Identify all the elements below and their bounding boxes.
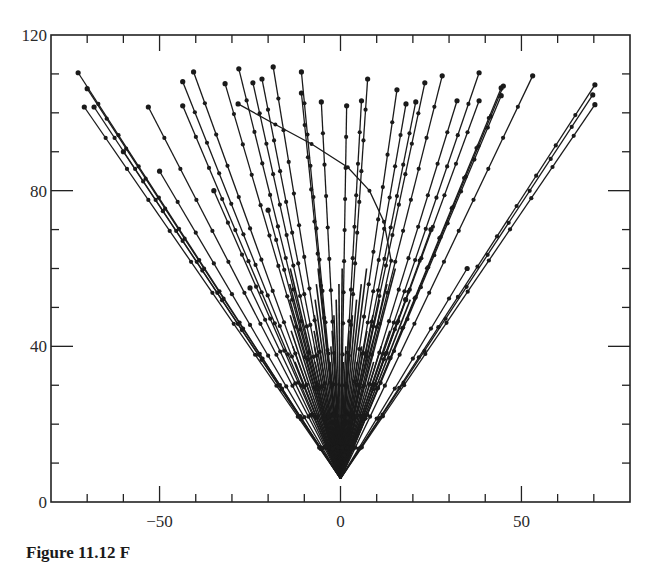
trajectory-marker (174, 229, 178, 233)
trajectory-marker (325, 348, 329, 352)
trajectory-marker (287, 160, 291, 164)
trajectory-marker (237, 195, 241, 199)
trajectory-marker (395, 321, 399, 325)
trajectory-marker (245, 98, 249, 102)
trajectory-marker (168, 229, 172, 233)
trajectory-marker (285, 233, 289, 237)
trajectory-marker (178, 167, 182, 171)
trajectory-marker (322, 316, 326, 320)
trajectory-marker (357, 200, 361, 204)
trajectory-marker (264, 142, 268, 146)
trajectory-marker (528, 189, 532, 193)
trajectory-marker (137, 164, 141, 168)
trajectory-marker (235, 101, 240, 106)
trajectory-marker (409, 198, 413, 202)
trajectory-marker (290, 354, 294, 358)
trajectory-marker (393, 386, 397, 390)
trajectory-marker (343, 228, 347, 232)
trajectory-marker (573, 113, 577, 117)
trajectory-marker (271, 289, 275, 293)
trajectory-marker (416, 225, 420, 229)
trajectory-marker (299, 319, 303, 323)
trajectory-marker (314, 226, 318, 230)
trajectory-marker (381, 185, 385, 189)
trajectory-marker (422, 80, 427, 85)
trajectory-marker (436, 162, 440, 166)
trajectory-marker (203, 101, 207, 105)
trajectory-marker (429, 326, 433, 330)
trajectory-marker (465, 130, 469, 134)
trajectory-marker (323, 320, 327, 324)
trajectory-marker (217, 171, 221, 175)
trajectory-marker (307, 350, 311, 354)
trajectory-marker (291, 287, 295, 291)
trajectory-marker (353, 261, 357, 265)
trajectory-marker (314, 387, 318, 391)
trajectory-marker (393, 164, 397, 168)
trajectory-marker (294, 325, 298, 329)
trajectory-marker (495, 234, 499, 238)
trajectory-marker (314, 354, 318, 358)
trajectory-marker (364, 355, 368, 359)
trajectory-marker (426, 265, 430, 269)
trajectory-marker (273, 321, 277, 325)
trajectory-marker (394, 87, 399, 92)
y-tick-label: 120 (22, 26, 48, 45)
trajectory-marker (308, 164, 312, 168)
trajectory-marker (489, 114, 493, 118)
trajectory-marker (323, 445, 327, 449)
trajectory-marker (291, 263, 295, 267)
trajectory-marker (271, 64, 276, 69)
trajectory-marker (273, 123, 277, 127)
trajectory-marker (180, 103, 185, 108)
trajectory-marker (248, 323, 252, 327)
trajectory-marker (266, 354, 270, 358)
trajectory-marker (330, 320, 334, 324)
trajectory-marker (405, 317, 409, 321)
trajectory-marker (371, 387, 375, 391)
y-tick-label: 80 (30, 182, 47, 201)
trajectory-marker (263, 318, 267, 322)
trajectory-marker (486, 253, 490, 257)
trajectory-marker (319, 284, 323, 288)
trajectory-marker (191, 69, 196, 74)
trajectory-marker (370, 353, 374, 357)
trajectory-marker (353, 379, 357, 383)
trajectory-marker (278, 324, 282, 328)
trajectory-marker (277, 384, 281, 388)
trajectory-marker (384, 352, 388, 356)
trajectory-marker (445, 130, 449, 134)
trajectory-marker (442, 260, 446, 264)
trajectory-marker (377, 258, 381, 262)
trajectory-marker (284, 256, 288, 260)
trajectory-marker (407, 131, 411, 135)
trajectory-marker (476, 70, 481, 75)
trajectory-marker (247, 285, 252, 290)
y-axis-tick-labels: 04080120 (22, 26, 48, 512)
trajectory-marker (236, 66, 241, 71)
trajectory-marker (307, 287, 311, 291)
trajectory-marker (276, 96, 280, 100)
trajectory-marker (384, 263, 388, 267)
trajectory-marker (465, 266, 470, 271)
trajectory-marker (346, 165, 350, 169)
trajectory-marker (349, 447, 353, 451)
trajectory-marker (414, 295, 418, 299)
trajectory-marker (397, 203, 401, 207)
trajectory-marker (299, 90, 304, 95)
trajectory-marker (240, 328, 244, 332)
trajectory-marker (367, 282, 371, 286)
trajectory-marker (403, 297, 408, 302)
trajectory-marker (284, 200, 288, 204)
trajectory-marker (157, 169, 162, 174)
trajectory-marker (210, 291, 214, 295)
trajectory-marker (215, 291, 219, 295)
trajectory-marker (344, 135, 348, 139)
trajectory-marker (290, 298, 294, 302)
trajectory-marker (428, 227, 433, 232)
y-tick-label: 40 (30, 337, 47, 356)
trajectory-marker (377, 351, 381, 355)
trajectory-marker (286, 352, 290, 356)
trajectory-marker (406, 290, 410, 294)
trajectory-marker (402, 289, 406, 293)
